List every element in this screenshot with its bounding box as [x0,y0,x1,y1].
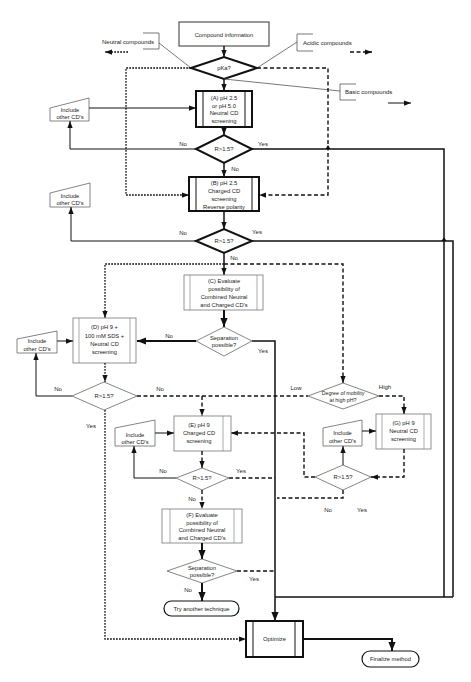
svg-text:Separation: Separation [210,335,238,341]
svg-text:(D) pH 9 +: (D) pH 9 + [91,324,119,330]
decision-resolution-2: R>1.5? [196,229,252,253]
junction-icon [442,237,447,241]
include-other-cds-3: Include other CD's [17,331,57,353]
pka-label: pKa? [217,65,231,71]
svg-text:Include: Include [126,432,145,438]
svg-text:Include: Include [333,430,352,436]
decision-resolution-1: R>1.5? [196,135,252,163]
edge-label-no: No [179,230,187,236]
svg-text:screening: screening [391,436,416,442]
decision-separation-1: Separation possible? [196,327,252,356]
svg-text:screening: screening [211,196,236,202]
svg-text:Separation: Separation [188,565,216,571]
svg-text:(A) pH 2.5: (A) pH 2.5 [211,95,237,101]
svg-text:R>1.5?: R>1.5? [215,146,235,152]
svg-text:other CD's: other CD's [56,200,83,206]
edge-label-no: No [159,468,167,474]
edge-label-no: No [324,507,332,513]
cd-method-development-flowchart: Compound information pKa? Neutral compou… [0,0,471,682]
step-G-box: (G) pH 9 Neutral CD screening [376,414,431,449]
svg-text:and Charged CD's: and Charged CD's [200,302,248,308]
svg-text:possible?: possible? [190,572,215,578]
svg-text:(C) Evaluate: (C) Evaluate [208,278,240,284]
svg-text:Neutral CD: Neutral CD [389,428,418,434]
edge-acidic-to-B [257,68,328,195]
svg-text:Finalize method: Finalize method [370,656,411,662]
edge-R2-no-to-include2 [71,207,196,241]
svg-text:possibility of: possibility of [208,286,240,292]
step-optimize-box: Optimize [246,621,303,657]
decision-resolution-5: R>1.5? [315,465,371,490]
include-other-cds-1: Include other CD's [50,98,89,121]
edge-label-no: No [184,587,192,593]
edge-label-no: No [188,496,196,502]
include-other-cds-4: Include other CD's [115,420,155,446]
edge-label-no: No [54,386,62,392]
edge-label-yes: Yes [236,468,246,474]
svg-text:(E) pH 9: (E) pH 9 [188,422,210,428]
pka-decision: pKa? [191,57,257,79]
svg-text:possibility of: possibility of [186,520,218,526]
svg-text:Degree of mobility: Degree of mobility [322,390,365,396]
edge-neutral-to-B [126,68,191,195]
edge-R5-yes-to-optimize [277,490,343,498]
svg-text:Neutral CD: Neutral CD [210,110,239,116]
svg-text:other CD's: other CD's [329,438,356,444]
svg-text:at high pH?: at high pH? [329,397,356,403]
svg-text:Try another technique: Try another technique [173,606,229,612]
svg-text:R>1.5?: R>1.5? [334,474,354,480]
svg-text:screening: screening [211,118,236,124]
decision-mobility: Degree of mobility at high pH? [308,383,379,409]
step-A-box: (A) pH 2.5 or pH 5.0 Neutral CD screenin… [196,91,252,127]
svg-text:100 mM SDS +: 100 mM SDS + [85,333,125,339]
step-C-box: (C) Evaluate possibility of Combined Neu… [184,275,263,310]
step-E-box: (E) pH 9 Charged CD screening [174,416,231,451]
svg-text:screening: screening [92,349,117,355]
svg-text:Charged CD: Charged CD [183,430,215,436]
edge-label-yes: Yes [258,141,268,147]
junction-icon [326,145,331,149]
svg-text:(B) pH 2.5: (B) pH 2.5 [211,180,237,186]
edge-mobility-high-to-G [379,396,404,414]
arrow-optimize-to-finalize [303,639,392,651]
svg-text:Reverse polarity: Reverse polarity [203,204,245,210]
svg-text:Include: Include [61,107,80,113]
callout-neutral-compounds: Neutral compounds [102,33,191,68]
terminal-finalize-method: Finalize method [362,651,419,667]
svg-text:Optimize: Optimize [263,636,286,642]
svg-text:other CD's: other CD's [56,114,83,120]
step-D-box: (D) pH 9 + 100 mM SDS + Neutral CD scree… [73,318,136,363]
edge-label-no: No [165,333,173,339]
svg-text:other CD's: other CD's [23,346,50,352]
flowchart-canvas: Compound information pKa? Neutral compou… [0,0,471,682]
terminal-try-another-technique: Try another technique [164,601,239,616]
svg-text:R>1.5?: R>1.5? [95,393,115,399]
edge-label-yes: Yes [258,348,268,354]
callout-acidic-compounds: Acidic compounds [257,34,372,68]
step-B-box: (B) pH 2.5 Charged CD screening Reverse … [189,177,259,211]
svg-text:Neutral CD: Neutral CD [90,341,119,347]
svg-text:Charged CD: Charged CD [208,188,240,194]
svg-text:other CD's: other CD's [121,439,148,445]
edge-label-high: High [379,384,391,390]
svg-text:(F) Evaluate: (F) Evaluate [186,512,218,518]
edge-R4-no-to-include4 [134,446,176,478]
decision-resolution-3: R>1.5? [72,382,137,410]
edge-label-yes: Yes [249,576,259,582]
step-F-box: (F) Evaluate possibility of Combined Neu… [162,509,242,543]
basic-compounds-label: Basic compounds [345,89,392,95]
svg-text:Combined Neutral: Combined Neutral [179,527,226,533]
edge-label-yes: Yes [252,229,262,235]
acidic-compounds-label: Acidic compounds [303,40,352,46]
edge-label-no: No [231,166,239,172]
svg-text:R>1.5?: R>1.5? [193,475,213,481]
decision-resolution-4: R>1.5? [176,468,229,490]
edge-label-low: Low [290,385,302,391]
edge-label-no: No [179,141,187,147]
svg-text:(G) pH 9: (G) pH 9 [392,420,414,426]
edge-label-no: No [156,386,164,392]
neutral-compounds-label: Neutral compounds [102,39,154,45]
edge-G-to-R5 [371,449,404,477]
edge-R1-no-to-include1 [70,121,196,149]
edge-label-yes: Yes [86,423,96,429]
